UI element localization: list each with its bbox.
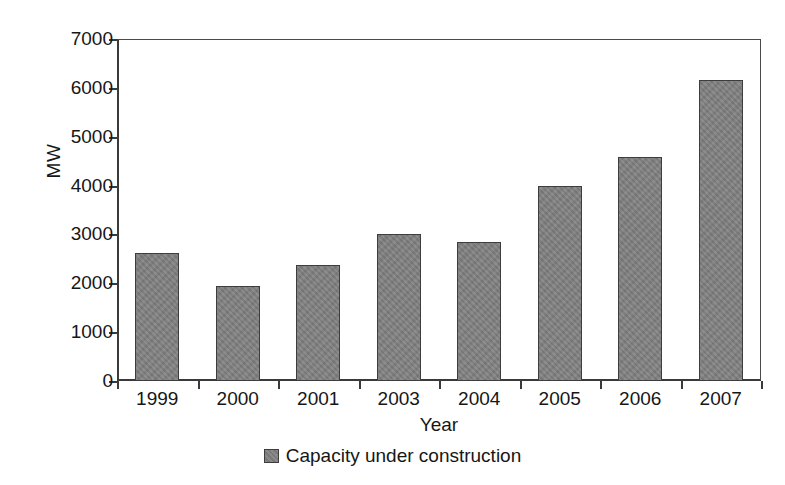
x-tick-label: 2004 bbox=[439, 388, 520, 410]
bar[interactable] bbox=[699, 80, 743, 381]
bar[interactable] bbox=[377, 234, 421, 381]
bar[interactable] bbox=[135, 253, 179, 381]
y-axis-ticks: 01000200030004000500060007000 bbox=[0, 39, 113, 381]
x-tick-label: 2001 bbox=[278, 388, 359, 410]
x-axis-labels: 19992000200120032004200520062007 bbox=[117, 388, 761, 414]
bar[interactable] bbox=[618, 157, 662, 381]
bar-slot bbox=[359, 39, 440, 381]
x-tick-label: 1999 bbox=[117, 388, 198, 410]
y-tick-label: 4000 bbox=[17, 176, 113, 195]
x-tick-label: 2006 bbox=[600, 388, 681, 410]
bars-layer bbox=[117, 39, 761, 381]
y-tick-label: 5000 bbox=[17, 127, 113, 146]
bar-slot bbox=[439, 39, 520, 381]
y-tick-label: 3000 bbox=[17, 224, 113, 243]
legend-label: Capacity under construction bbox=[286, 446, 522, 465]
y-tick-label: 6000 bbox=[17, 78, 113, 97]
legend: Capacity under construction bbox=[0, 446, 785, 465]
x-axis-title: Year bbox=[117, 414, 761, 436]
y-tick-label: 2000 bbox=[17, 273, 113, 292]
legend-swatch-icon bbox=[264, 449, 279, 463]
y-tick-label: 7000 bbox=[17, 29, 113, 48]
bar[interactable] bbox=[216, 286, 260, 381]
bar[interactable] bbox=[457, 242, 501, 381]
bar-slot bbox=[198, 39, 279, 381]
y-tick-label: 1000 bbox=[17, 322, 113, 341]
bar-chart: MW 01000200030004000500060007000 1999200… bbox=[0, 0, 785, 485]
bar[interactable] bbox=[296, 265, 340, 381]
bar-slot bbox=[117, 39, 198, 381]
bar[interactable] bbox=[538, 186, 582, 381]
x-tick-label: 2005 bbox=[520, 388, 601, 410]
x-tick-mark bbox=[761, 381, 763, 389]
bar-slot bbox=[600, 39, 681, 381]
y-tick-label: 0 bbox=[17, 371, 113, 390]
bar-slot bbox=[520, 39, 601, 381]
x-tick-label: 2000 bbox=[198, 388, 279, 410]
x-tick-label: 2007 bbox=[681, 388, 762, 410]
bar-slot bbox=[681, 39, 762, 381]
bar-slot bbox=[278, 39, 359, 381]
x-tick-label: 2003 bbox=[359, 388, 440, 410]
